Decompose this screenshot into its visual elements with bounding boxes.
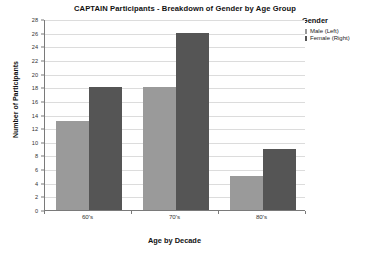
- plot-area: [44, 20, 305, 211]
- bar[interactable]: [230, 176, 263, 210]
- y-axis-tick-label: 4: [35, 181, 38, 187]
- legend-label-male: Male (Left): [310, 28, 339, 34]
- y-axis-tick-label: 26: [32, 31, 38, 37]
- bars-layer: [45, 20, 305, 210]
- x-axis: 60's70's80's: [44, 213, 305, 225]
- y-axis-tick-label: 10: [32, 140, 38, 146]
- x-axis-tick-label: 80's: [256, 213, 267, 220]
- bar-group: [219, 20, 306, 210]
- legend-item-female: Female (Right): [302, 35, 370, 41]
- y-axis-tick-label: 2: [35, 194, 38, 200]
- y-axis-tick-label: 20: [32, 72, 38, 78]
- y-axis-tick-label: 14: [32, 113, 38, 119]
- bar-group: [45, 20, 132, 210]
- legend-label-female: Female (Right): [310, 35, 350, 41]
- y-axis-tick-label: 8: [35, 153, 38, 159]
- x-axis-tick-mark: [44, 211, 45, 214]
- x-axis-title: Age by Decade: [44, 236, 305, 245]
- bar[interactable]: [89, 87, 122, 210]
- bar[interactable]: [56, 121, 89, 210]
- y-axis-tick-label: 24: [32, 44, 38, 50]
- bar[interactable]: [176, 33, 209, 210]
- y-axis-tick-label: 12: [32, 126, 38, 132]
- legend-item-male: Male (Left): [302, 28, 370, 34]
- x-axis-tick-mark: [305, 211, 306, 214]
- chart-title: CAPTAIN Participants - Breakdown of Gend…: [0, 4, 370, 13]
- y-axis-tick-label: 28: [32, 17, 38, 23]
- bar-group: [132, 20, 219, 210]
- y-axis-tick-label: 18: [32, 85, 38, 91]
- y-axis-tick-label: 22: [32, 58, 38, 64]
- y-axis-title: Number of Participants: [12, 25, 19, 175]
- y-axis: 0246810121416182022242628: [0, 20, 44, 211]
- y-axis-tick-label: 16: [32, 99, 38, 105]
- legend-title: Gender: [302, 16, 370, 25]
- x-axis-tick-label: 60's: [82, 213, 93, 220]
- bar[interactable]: [263, 149, 296, 210]
- x-axis-tick-label: 70's: [169, 213, 180, 220]
- x-axis-tick-mark: [131, 211, 132, 214]
- x-axis-tick-mark: [218, 211, 219, 214]
- bar-chart: CAPTAIN Participants - Breakdown of Gend…: [0, 0, 370, 261]
- y-axis-tick-label: 6: [35, 167, 38, 173]
- bar[interactable]: [143, 87, 176, 210]
- y-axis-tick-label: 0: [35, 208, 38, 214]
